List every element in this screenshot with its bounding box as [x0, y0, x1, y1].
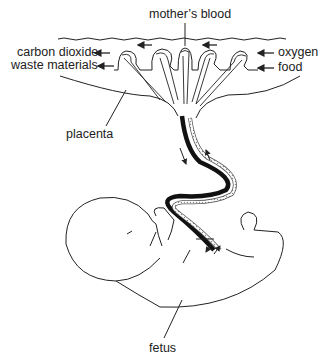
- label-carbon-dioxide: carbon dioxide: [17, 46, 98, 59]
- label-fetus: fetus: [149, 342, 176, 355]
- label-mothers-blood: mother’s blood: [149, 8, 231, 21]
- label-oxygen: oxygen: [278, 46, 318, 59]
- label-waste-materials: waste materials: [11, 59, 98, 72]
- uterine-wall-line: [58, 38, 286, 40]
- label-food: food: [278, 61, 302, 74]
- placenta-outline-right: [196, 76, 300, 118]
- placenta-diagram: mother’s blood carbon dioxide waste mate…: [0, 0, 328, 362]
- label-placenta: placenta: [66, 128, 113, 141]
